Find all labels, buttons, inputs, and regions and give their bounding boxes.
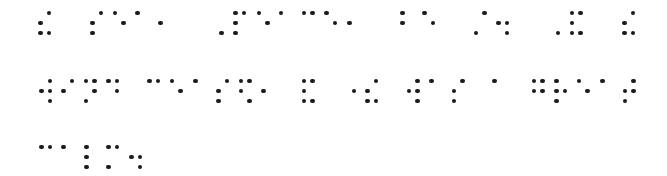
braille-dot	[38, 21, 43, 26]
braille-dot	[554, 99, 559, 104]
braille-dot	[352, 89, 357, 94]
braille-dot	[631, 11, 636, 16]
braille-dot	[431, 21, 436, 26]
braille-dot	[460, 79, 465, 84]
braille-cell	[113, 11, 127, 37]
braille-cell	[90, 11, 104, 37]
braille-dot	[452, 89, 457, 94]
braille-cell	[147, 79, 161, 105]
braille-cell	[84, 145, 98, 171]
braille-dot	[505, 21, 510, 26]
braille-dot	[400, 21, 405, 26]
braille-cell	[302, 11, 316, 37]
braille-cell	[216, 79, 230, 105]
braille-dot	[600, 79, 605, 84]
braille-dot	[61, 89, 66, 94]
braille-dot	[216, 99, 221, 104]
braille-dot	[556, 31, 561, 36]
braille-cell	[400, 11, 414, 37]
braille-cell	[135, 11, 149, 37]
braille-dot	[106, 165, 111, 170]
braille-dot	[61, 145, 66, 150]
braille-cell	[39, 145, 53, 171]
braille-cell	[38, 11, 52, 37]
braille-dot	[135, 11, 140, 16]
braille-dot	[115, 79, 120, 84]
braille-dot	[623, 99, 628, 104]
braille-cell	[365, 79, 379, 105]
braille-dot	[570, 11, 575, 16]
braille-cell	[554, 79, 568, 105]
braille-dot	[257, 11, 262, 16]
braille-cell	[422, 11, 436, 37]
braille-dot	[407, 89, 412, 94]
braille-dot	[247, 99, 252, 104]
braille-dot	[631, 79, 636, 84]
braille-dot	[99, 11, 104, 16]
braille-cell	[233, 11, 247, 37]
braille-dot	[577, 79, 582, 84]
braille-dot	[302, 99, 307, 104]
braille-dot	[474, 31, 479, 36]
braille-dot	[47, 31, 52, 36]
braille-dot	[39, 145, 44, 150]
braille-cell	[343, 79, 357, 105]
braille-dot	[48, 99, 53, 104]
braille-dot	[532, 89, 537, 94]
braille-dot	[302, 11, 307, 16]
braille-cell	[452, 79, 466, 105]
braille-dot	[415, 89, 420, 94]
braille-dot	[115, 89, 120, 94]
braille-dot	[302, 79, 307, 84]
braille-dot	[347, 21, 352, 26]
braille-cell	[622, 11, 636, 37]
braille-dot	[622, 31, 627, 36]
braille-dot	[279, 11, 284, 16]
braille-cell	[532, 79, 546, 105]
braille-dot	[129, 155, 134, 160]
braille-dot	[84, 155, 89, 160]
braille-cell	[279, 11, 293, 37]
braille-cell	[106, 79, 120, 105]
braille-dot	[365, 99, 370, 104]
braille-cell	[347, 11, 361, 37]
braille-dot	[492, 79, 497, 84]
braille-dot	[540, 89, 545, 94]
braille-cell	[39, 79, 53, 105]
braille-dot	[374, 79, 379, 84]
braille-dot	[70, 79, 75, 84]
braille-dot	[374, 99, 379, 104]
braille-cell	[106, 145, 120, 171]
braille-dot	[38, 31, 43, 36]
braille-cell	[61, 79, 75, 105]
braille-dot	[496, 21, 501, 26]
braille-cell	[407, 79, 421, 105]
braille-dot	[115, 145, 120, 150]
braille-dot	[233, 21, 238, 26]
braille-dot	[92, 89, 97, 94]
braille-dot	[92, 79, 97, 84]
braille-cell	[429, 79, 443, 105]
braille-cell	[577, 79, 591, 105]
braille-dot	[631, 89, 636, 94]
braille-dot	[48, 79, 53, 84]
braille-dot	[193, 79, 198, 84]
braille-dot	[310, 11, 315, 16]
braille-dot	[48, 145, 53, 150]
braille-dot	[415, 99, 420, 104]
braille-cell	[570, 11, 584, 37]
braille-dot	[158, 21, 163, 26]
braille-dot	[482, 11, 487, 16]
braille-dot	[247, 79, 252, 84]
braille-dot	[147, 79, 152, 84]
braille-dot	[422, 11, 427, 16]
braille-dot	[554, 79, 559, 84]
braille-dot	[324, 11, 329, 16]
braille-dot	[84, 99, 89, 104]
braille-dot	[452, 99, 457, 104]
braille-dot	[622, 21, 627, 26]
braille-line-3	[0, 145, 667, 175]
braille-dot	[400, 11, 405, 16]
braille-dot	[233, 31, 238, 36]
braille-cell	[261, 79, 275, 105]
